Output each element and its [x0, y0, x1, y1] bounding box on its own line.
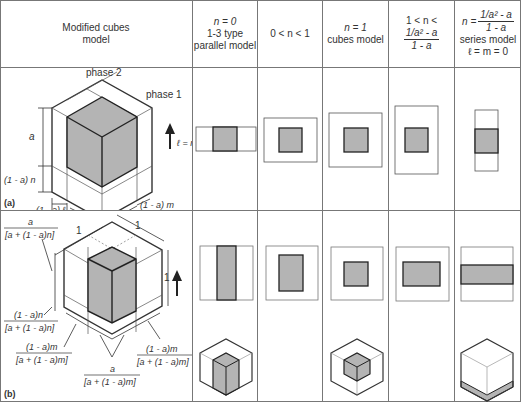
frac-n-num: (1 - a)n [14, 310, 43, 320]
header-col-3-line1: n = 1 [344, 22, 367, 34]
section-b-parallel [217, 246, 236, 300]
row-a-label: (a) [4, 198, 15, 208]
frac-a-num: a [110, 364, 115, 374]
frac-n-den: [a + (1 - a)n] [4, 323, 55, 333]
dim-one-vertical: 1 [164, 272, 170, 283]
section-a-series [475, 129, 498, 153]
row-b-label: (b) [4, 389, 16, 399]
header-col-1-line2: 1-3 type [207, 28, 243, 40]
header-col-2-line1: 0 < n < 1 [270, 28, 309, 40]
frac-top-num: a [28, 217, 33, 227]
dim-one-right: 1 [135, 220, 141, 231]
header-col-5-fraction: 1/a² - a 1 - a [478, 9, 514, 34]
header-col-4-line1: 1 < n < [406, 15, 437, 27]
frac-m-right-den: [a + (1 - a)m] [136, 357, 189, 367]
section-b-intermediate [279, 255, 303, 291]
frac-m-left-num: (1 - a)m [26, 342, 58, 352]
row-b-sections [193, 211, 521, 402]
section-a-cubes [344, 128, 368, 152]
cube-diagram-a: phase 2 phase 1 ℓ = m a (1 - a) n (1 - a… [0, 68, 192, 210]
header-col-5-line2: series model [460, 34, 517, 46]
header-col-1-line1: n = 0 [214, 16, 237, 28]
header-col-5-line1: n = [462, 16, 476, 28]
dim-m: (1 - a) m [140, 200, 175, 210]
header-col-3-line2: cubes model [327, 34, 384, 46]
dim-a-vertical: a [29, 131, 35, 142]
header-col-1-line3: parallel model [194, 40, 256, 52]
phase2-label: phase 2 [86, 68, 122, 78]
header-model-label: Modified cubes model [51, 22, 141, 46]
dim-one-left: 1 [76, 225, 82, 236]
section-b-cubes [344, 262, 368, 286]
frac-a-den: [a + (1 - a)m] [83, 377, 136, 387]
frac-m-right-num: (1 - a)m [146, 344, 178, 354]
phase1-label: phase 1 [146, 89, 182, 100]
header-col-series: n = 1/a² - a 1 - a series model ℓ = m = … [455, 0, 521, 67]
small-cube-parallel [200, 339, 252, 395]
section-a-parallel [213, 127, 237, 151]
header-col-5-num: 1/a² - a [478, 9, 514, 22]
header-col-5-den: 1 - a [486, 22, 506, 34]
header-col-4-den: 1 - a [411, 40, 431, 52]
small-cube-cubes [331, 339, 383, 395]
header-col-5-eq: n = 1/a² - a 1 - a [462, 9, 514, 34]
frac-top-den: [a + (1 - a)n] [4, 230, 55, 240]
header-col-4-fraction: 1/a² - a 1 - a [404, 27, 440, 52]
section-b-upper [403, 262, 440, 286]
header-col-5-line3: ℓ = m = 0 [468, 46, 508, 58]
header-col-intermediate: 0 < n < 1 [258, 0, 322, 67]
section-a-upper [405, 128, 428, 152]
arrow-label-a: ℓ = m [176, 138, 192, 148]
header-col-upper: 1 < n < 1/a² - a 1 - a [389, 0, 454, 67]
dim-l: (1 - a) ℓ [36, 205, 66, 210]
row-a-sections [193, 68, 521, 210]
header-col-cubes: n = 1 cubes model [323, 0, 388, 67]
dim-n: (1 - a) n [4, 175, 36, 185]
frac-m-left-den: [a + (1 - a)m] [15, 355, 68, 365]
header-model: Modified cubes model [0, 0, 192, 67]
header-col-4-num: 1/a² - a [404, 27, 440, 40]
section-a-intermediate [279, 128, 302, 152]
cube-diagram-b: 1 1 1 a [a + (1 - a)n] (1 - a)n [a + (1 … [0, 211, 192, 402]
section-b-series [461, 265, 513, 284]
header-col-parallel: n = 0 1-3 type parallel model [193, 0, 257, 67]
small-cube-series [461, 339, 513, 401]
